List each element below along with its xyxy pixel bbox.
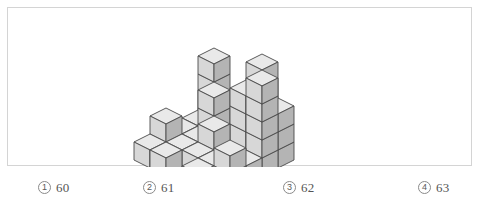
option-marker-icon: 2 [143, 181, 156, 194]
option-value: 61 [161, 181, 174, 194]
answer-option-4[interactable]: 4 63 [418, 181, 472, 194]
answer-option-1[interactable]: 1 60 [7, 181, 143, 194]
option-marker-icon: 1 [38, 181, 51, 194]
cube-figure-canvas [8, 8, 473, 167]
option-marker-icon: 3 [283, 181, 296, 194]
isometric-cube-stack [8, 8, 473, 167]
answer-option-3[interactable]: 3 62 [283, 181, 418, 194]
option-value: 62 [301, 181, 314, 194]
figure-frame [7, 7, 472, 166]
option-value: 60 [56, 181, 69, 194]
answer-options: 1 60 2 61 3 62 4 63 [7, 176, 472, 198]
option-marker-icon: 4 [418, 181, 431, 194]
option-value: 63 [436, 181, 449, 194]
cube-group [134, 48, 294, 167]
problem-figure-page: 1 60 2 61 3 62 4 63 [0, 0, 479, 201]
answer-option-2[interactable]: 2 61 [143, 181, 283, 194]
